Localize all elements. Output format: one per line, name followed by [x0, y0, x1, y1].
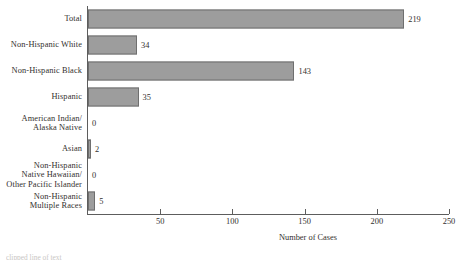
- category-label: Non-Hispanic Native Hawaiian/ Other Paci…: [0, 161, 82, 189]
- bar-value-label: 34: [141, 41, 149, 50]
- bar: [88, 36, 137, 55]
- category-label: Non-Hispanic White: [0, 40, 82, 49]
- bar-row: American Indian/ Alaska Native0: [0, 110, 468, 136]
- bar-row: Asian2: [0, 136, 468, 162]
- category-label: Non-Hispanic Multiple Races: [0, 192, 82, 211]
- plot-area: Total219Non-Hispanic White34Non-Hispanic…: [0, 0, 468, 260]
- bar: [88, 10, 404, 29]
- bar-row: Hispanic35: [0, 84, 468, 110]
- category-label: Hispanic: [0, 92, 82, 101]
- x-tick-label: 150: [298, 217, 311, 226]
- category-label: Total: [0, 14, 82, 23]
- bar: [88, 192, 95, 211]
- bar-track: 34: [88, 32, 468, 58]
- x-tick: [449, 209, 450, 214]
- bar-track: 0: [88, 110, 468, 136]
- bar-row: Total219: [0, 6, 468, 32]
- x-tick: [305, 209, 306, 214]
- bar-value-label: 219: [408, 15, 421, 24]
- bar-value-label: 35: [143, 93, 151, 102]
- x-tick-label: 250: [443, 217, 456, 226]
- bar: [88, 62, 294, 81]
- bar-value-label: 0: [92, 119, 96, 128]
- bar-value-label: 2: [95, 145, 99, 154]
- x-axis-title-label: Number of Cases: [279, 233, 337, 242]
- bar-track: 143: [88, 58, 468, 84]
- clipped-footnote: clipped line of text: [6, 254, 462, 260]
- x-tick-label: 50: [156, 217, 164, 226]
- x-tick: [377, 209, 378, 214]
- bar-value-label: 0: [92, 171, 96, 180]
- bar-row: Non-Hispanic White34: [0, 32, 468, 58]
- bar-track: 219: [88, 6, 468, 32]
- x-tick: [160, 209, 161, 214]
- category-label: American Indian/ Alaska Native: [0, 114, 82, 133]
- bar-chart: Total219Non-Hispanic White34Non-Hispanic…: [0, 0, 468, 260]
- bar-track: 2: [88, 136, 468, 162]
- bar-track: 35: [88, 84, 468, 110]
- bar: [88, 88, 139, 107]
- category-label: Non-Hispanic Black: [0, 66, 82, 75]
- x-tick-label: 200: [371, 217, 384, 226]
- bar-row: Non-Hispanic Multiple Races5: [0, 188, 468, 214]
- bar-track: 5: [88, 188, 468, 214]
- bar-value-label: 5: [99, 197, 103, 206]
- bar-rows: Total219Non-Hispanic White34Non-Hispanic…: [0, 6, 468, 214]
- bar-track: 0: [88, 162, 468, 188]
- bar-row: Non-Hispanic Black143: [0, 58, 468, 84]
- x-axis-title: Number of Cases: [0, 233, 468, 242]
- bar-value-label: 143: [298, 67, 311, 76]
- category-label: Asian: [0, 144, 82, 153]
- bar: [88, 140, 91, 159]
- bar-row: Non-Hispanic Native Hawaiian/ Other Paci…: [0, 162, 468, 188]
- x-tick-label: 100: [226, 217, 239, 226]
- x-axis-line: [87, 214, 449, 215]
- x-tick: [232, 209, 233, 214]
